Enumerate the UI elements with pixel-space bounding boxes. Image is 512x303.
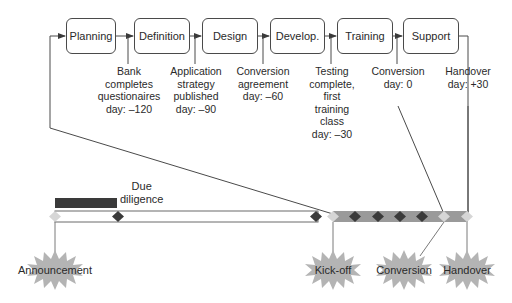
phase-label: Support	[412, 30, 451, 42]
due-diligence-label: Due diligence	[120, 180, 163, 205]
event-kickoff-label: Kick-off	[315, 264, 351, 276]
phase-label: Design	[213, 30, 247, 42]
loop-arrow-kickoff-to-planning	[50, 36, 333, 214]
phase-label: Definition	[139, 30, 185, 42]
phase-develop: Develop.	[270, 18, 325, 54]
milestone-conversion-day: Conversion day: 0	[371, 65, 424, 90]
event-conversion-label: Conversion	[376, 264, 432, 276]
phase-design: Design	[202, 18, 258, 54]
phase-planning: Planning	[66, 18, 116, 54]
phase-label: Develop.	[276, 30, 319, 42]
milestone-bank-questionaires: Bank completes questionaires day: –120	[98, 65, 160, 115]
milestone-handover-day: Handover day: +30	[445, 65, 491, 90]
due-diligence-bar	[55, 198, 117, 208]
phase-definition: Definition	[134, 18, 190, 54]
event-handover-label: Handover	[443, 264, 491, 276]
phase-label: Training	[345, 30, 384, 42]
phase-label: Planning	[70, 30, 113, 42]
phase-support: Support	[403, 18, 459, 54]
phase-training: Training	[337, 18, 393, 54]
milestone-testing-complete: Testing complete, first training class d…	[309, 65, 355, 140]
support-to-handover-line	[458, 36, 468, 212]
milestone-conversion-agreement: Conversion agreement day: –60	[236, 65, 289, 103]
timeline-pre-project	[55, 211, 318, 222]
conversion-day-pointer	[398, 106, 444, 214]
milestone-application-strategy: Application strategy published day: –90	[170, 65, 221, 115]
event-announcement-label: Announcement	[18, 264, 92, 276]
